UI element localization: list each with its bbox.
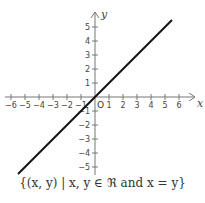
x-tick-label: 3 — [134, 101, 139, 110]
x-tick-label: 4 — [148, 101, 153, 110]
x-tick-label: 5 — [162, 101, 167, 110]
y-tick-label: 2 — [85, 65, 90, 74]
y-tick-label: −5 — [78, 163, 90, 172]
y-tick-label: −4 — [78, 149, 90, 158]
origin-label: O — [97, 100, 104, 110]
x-tick-label: −3 — [47, 101, 59, 110]
y-axis-label: y — [100, 8, 108, 21]
set-caption: {(x, y) | x, y ∈ ℜ and x = y} — [0, 176, 205, 190]
x-tick-label: −2 — [61, 101, 73, 110]
y-tick-label: −3 — [78, 135, 90, 144]
x-tick-label: −6 — [5, 101, 17, 110]
x-tick-label: 6 — [176, 101, 181, 110]
x-tick-label: 2 — [120, 101, 125, 110]
y-tick-label: −2 — [78, 121, 90, 130]
x-axis-label: x — [197, 97, 204, 110]
graph: −6−5−4−3−2−1123456−5−4−3−2−112345xyO — [0, 0, 205, 175]
x-tick-label: 1 — [106, 101, 111, 110]
x-tick-label: −5 — [19, 101, 31, 110]
y-tick-label: 3 — [85, 51, 90, 60]
y-tick-label: 1 — [85, 79, 90, 88]
y-tick-label: 4 — [85, 37, 90, 46]
x-tick-label: −4 — [33, 101, 45, 110]
y-tick-label: 5 — [85, 23, 90, 32]
